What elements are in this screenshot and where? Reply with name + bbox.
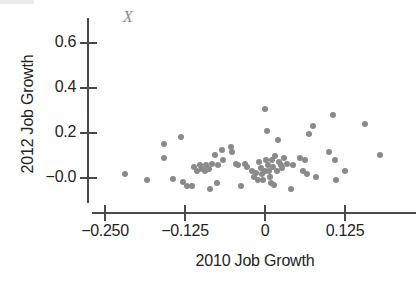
data-point (215, 162, 221, 168)
data-point (272, 153, 278, 159)
x-tick-mark (184, 205, 186, 221)
data-point (310, 123, 316, 129)
data-point (229, 149, 235, 155)
data-point (330, 112, 336, 118)
data-point (288, 186, 294, 192)
data-point (260, 177, 266, 183)
data-point (377, 152, 383, 158)
y-axis-line (87, 18, 89, 203)
data-point (302, 157, 308, 163)
x-tick-label: 0.125 (305, 222, 385, 240)
data-point (262, 106, 268, 112)
x-tick-label: −0.125 (145, 222, 225, 240)
data-point (342, 168, 348, 174)
data-point (144, 177, 150, 183)
scatter-plot-figure: 0.60.40.2−0.0 −0.250−0.12500.125 X 2012 … (0, 0, 419, 285)
y-axis-title: 2012 Job Growth (19, 19, 37, 209)
data-point (161, 155, 167, 161)
y-tick-mark (80, 87, 97, 89)
data-point (271, 182, 277, 188)
y-tick-mark (80, 132, 97, 134)
y-tick-mark (80, 42, 97, 44)
x-tick-mark (344, 205, 346, 221)
data-point (161, 141, 167, 147)
data-point (235, 162, 241, 168)
data-point (214, 180, 220, 186)
data-point (189, 183, 195, 189)
data-point (220, 157, 226, 163)
data-point (313, 174, 319, 180)
y-tick-mark (80, 177, 97, 179)
data-point (170, 176, 176, 182)
data-point (122, 171, 128, 177)
x-tick-mark (264, 205, 266, 221)
data-point (275, 137, 281, 143)
x-axis-title: 2010 Job Growth (110, 252, 400, 270)
data-point (362, 121, 368, 127)
data-point (304, 171, 310, 177)
x-axis-line (92, 212, 416, 214)
data-point (238, 183, 244, 189)
data-point (332, 157, 338, 163)
data-point (212, 152, 218, 158)
data-point (281, 155, 287, 161)
data-point (306, 131, 312, 137)
data-point (290, 162, 296, 168)
data-point (326, 149, 332, 155)
x-tick-mark (104, 205, 106, 221)
x-tick-label: 0 (225, 222, 305, 240)
data-point (178, 134, 184, 140)
x-tick-label: −0.250 (65, 222, 145, 240)
plot-area: 0.60.40.2−0.0 −0.250−0.12500.125 X (0, 0, 419, 285)
data-point (207, 186, 213, 192)
data-point (219, 147, 225, 153)
data-point (264, 128, 270, 134)
data-point (333, 177, 339, 183)
plot-annotation-x: X (123, 8, 133, 26)
